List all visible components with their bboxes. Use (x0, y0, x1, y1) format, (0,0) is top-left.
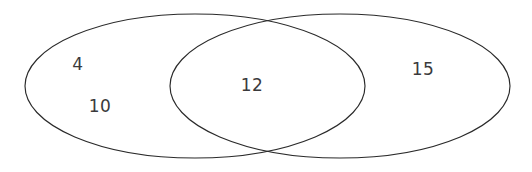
right-only-value-15: 15 (412, 61, 435, 78)
venn-diagram: 4 10 12 15 (0, 0, 532, 172)
right-set-ellipse (170, 14, 510, 158)
venn-ellipses-canvas (0, 0, 532, 172)
left-only-value-10: 10 (89, 98, 112, 115)
intersection-value-12: 12 (241, 77, 264, 94)
left-only-value-4: 4 (72, 56, 83, 73)
left-set-ellipse (25, 14, 365, 158)
